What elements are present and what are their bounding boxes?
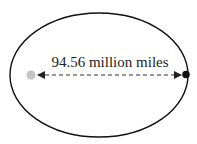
planet-dot	[182, 71, 190, 79]
distance-label: 94.56 million miles	[51, 54, 168, 70]
sun-dot	[27, 71, 36, 80]
orbit-diagram: 94.56 million miles	[0, 0, 197, 144]
orbit-ellipse	[10, 13, 188, 137]
